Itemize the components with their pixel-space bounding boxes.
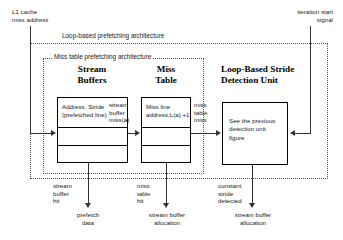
- edge-label-miss-table-miss: miss table miss: [194, 101, 220, 124]
- miss-table-row-2[interactable]: [142, 146, 190, 164]
- input-label-iteration-start-signal: iteration start signal: [255, 8, 333, 23]
- output-label-stream-buffer-allocation-1: stream buffer allocation: [136, 211, 198, 226]
- arrowhead-into-detection-unit-right: [290, 130, 295, 136]
- inner-frame-title: Miss table prefetching architecture: [52, 53, 153, 61]
- edge-label-constant-stride-detected: constant stride detected: [218, 182, 254, 205]
- connector-stream-buffer-hit-vertical: [88, 163, 89, 204]
- miss-table-row-0-text: Miss line address,L(a) +1: [146, 103, 190, 120]
- arrowhead-into-stream-buffers: [51, 130, 56, 136]
- arrowhead-into-miss-table: [135, 130, 140, 136]
- detection-unit-box[interactable]: See the previous detection unit figure: [222, 102, 288, 165]
- miss-table-row-0[interactable]: Miss line address,L(a) +1: [142, 98, 190, 128]
- stream-buffers-row-0-text: Address, Stride (prefetched line): [62, 103, 107, 120]
- connector-miss-table-to-detection-unit: [191, 133, 216, 134]
- edge-label-miss-table-hit: miss table hit: [137, 182, 167, 205]
- outer-frame-title: Loop-based prefetching architecture: [60, 32, 166, 40]
- miss-table-box[interactable]: Miss line address,L(a) +1: [141, 97, 191, 163]
- unit-title-stream-buffers: Stream Buffers: [54, 64, 130, 85]
- detection-unit-row-0-text: See the previous detection unit figure: [229, 117, 275, 142]
- connector-l1-miss-horizontal: [30, 133, 52, 134]
- input-label-l1-cache-miss-address: L1 cache miss address: [12, 8, 82, 23]
- output-label-stream-buffer-allocation-2: stream buffer allocation: [222, 211, 284, 226]
- arrowhead-into-detection-unit-left: [216, 130, 221, 136]
- unit-title-miss-table: Miss Table: [140, 64, 192, 85]
- connector-iteration-start-horizontal: [295, 133, 311, 134]
- miss-table-row-1[interactable]: [142, 128, 190, 146]
- connector-l1-miss-vertical: [30, 26, 31, 133]
- edge-label-stream-buffer-hit: stream buffer hit: [53, 182, 87, 205]
- output-label-prefetch-data: prefetch data: [62, 211, 114, 226]
- diagram-canvas: L1 cache miss address iteration start si…: [0, 0, 343, 240]
- unit-title-loop-based-stride-detection-unit: Loop-Based Stride Detection Unit: [221, 64, 313, 85]
- edge-label-stream-buffer-miss: stream buffer miss(a): [109, 101, 139, 124]
- connector-iteration-start-vertical: [310, 26, 311, 133]
- detection-unit-row-0[interactable]: See the previous detection unit figure: [223, 103, 287, 166]
- stream-buffers-row-1[interactable]: [58, 128, 127, 146]
- stream-buffers-row-2[interactable]: [58, 146, 127, 164]
